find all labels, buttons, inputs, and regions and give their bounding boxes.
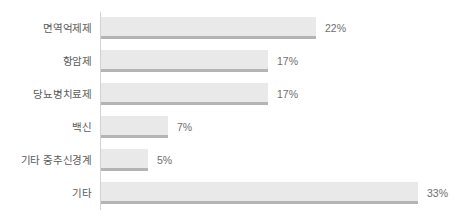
bar-stripe [101,135,168,138]
bar-stripe [101,36,316,39]
value-label: 17% [277,45,298,77]
category-label: 면역억제제 [0,12,92,44]
category-label: 항암제 [0,45,92,77]
bar [101,182,418,204]
bar-stripe [101,69,268,72]
bar-row: 면역억제제 22% [0,12,465,44]
bar-body [101,149,148,168]
bar-body [101,83,268,102]
bar-body [101,116,168,135]
bar-row: 백신 7% [0,111,465,143]
bar-stripe [101,201,418,204]
bar-row: 항암제 17% [0,45,465,77]
bar-chart: 면역억제제 22% 항암제 17% 당뇨병치료제 17% 백신 [0,0,465,221]
bar [101,17,316,39]
bar-body [101,182,418,201]
category-label: 당뇨병치료제 [0,78,92,110]
bar-body [101,17,316,36]
bar-row: 기타 중추신경계 5% [0,144,465,176]
bar [101,149,148,171]
bar-stripe [101,102,268,105]
bar [101,83,268,105]
category-label: 기타 [0,177,92,209]
value-label: 5% [157,144,172,176]
value-label: 22% [325,12,346,44]
bar [101,116,168,138]
bar-row: 기타 33% [0,177,465,209]
bar [101,50,268,72]
category-label: 백신 [0,111,92,143]
bar-body [101,50,268,69]
bar-stripe [101,168,148,171]
value-label: 33% [427,177,448,209]
value-label: 7% [177,111,192,143]
category-label: 기타 중추신경계 [0,144,92,176]
bar-row: 당뇨병치료제 17% [0,78,465,110]
value-label: 17% [277,78,298,110]
plot-area: 면역억제제 22% 항암제 17% 당뇨병치료제 17% 백신 [0,0,465,221]
